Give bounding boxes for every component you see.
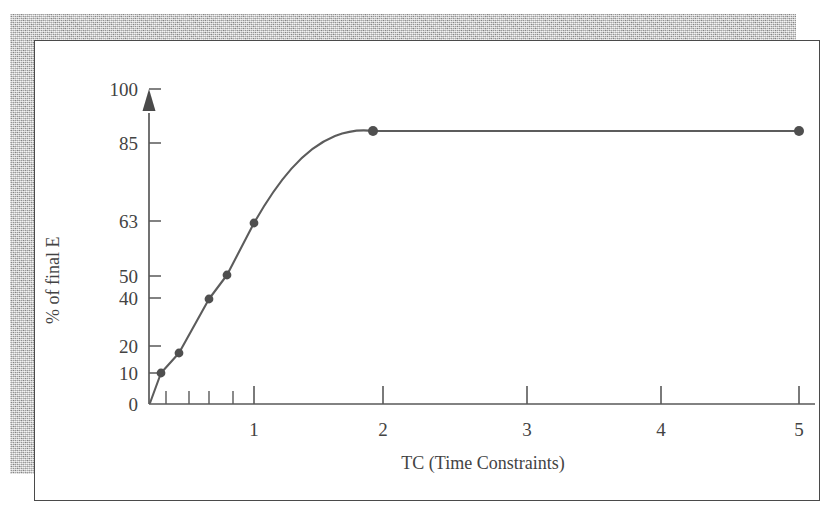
data-curve <box>150 130 799 403</box>
y-tick-labels: 100 85 63 50 40 20 10 0 <box>110 79 139 415</box>
scan-margin-left <box>10 14 36 474</box>
x-tick-marks <box>254 386 799 404</box>
data-point <box>368 126 378 136</box>
data-point <box>794 126 804 136</box>
data-point <box>205 295 214 304</box>
y-tick-label: 0 <box>129 394 139 415</box>
x-tick-label: 5 <box>794 419 804 440</box>
x-tick-label: 4 <box>656 419 666 440</box>
y-axis <box>143 89 156 404</box>
figure-root: 100 85 63 50 40 20 10 0 % of final E <box>0 0 830 519</box>
y-tick-label: 20 <box>119 336 138 357</box>
scan-margin-top <box>10 14 796 42</box>
x-minor-tick-marks <box>166 391 233 404</box>
y-tick-label: 63 <box>119 211 138 232</box>
y-tick-label: 50 <box>119 266 138 287</box>
scanned-page: 100 85 63 50 40 20 10 0 % of final E <box>34 40 820 501</box>
y-axis-title: % of final E <box>43 237 63 324</box>
data-point <box>175 349 184 358</box>
x-tick-label: 1 <box>249 419 259 440</box>
x-tick-labels: 1 2 3 4 5 <box>249 419 804 440</box>
y-tick-label: 40 <box>119 288 138 309</box>
y-tick-label: 10 <box>119 363 138 384</box>
x-tick-label: 2 <box>378 419 388 440</box>
data-point <box>223 271 232 280</box>
x-tick-label: 3 <box>522 419 532 440</box>
y-tick-marks <box>149 89 161 373</box>
y-tick-label: 85 <box>119 133 138 154</box>
data-point <box>250 219 259 228</box>
data-point-markers <box>157 126 804 377</box>
data-point <box>157 369 166 378</box>
chart-plot-area: 100 85 63 50 40 20 10 0 % of final E <box>35 41 821 502</box>
y-tick-label: 100 <box>110 79 139 100</box>
x-axis-title: TC (Time Constraints) <box>401 453 564 474</box>
